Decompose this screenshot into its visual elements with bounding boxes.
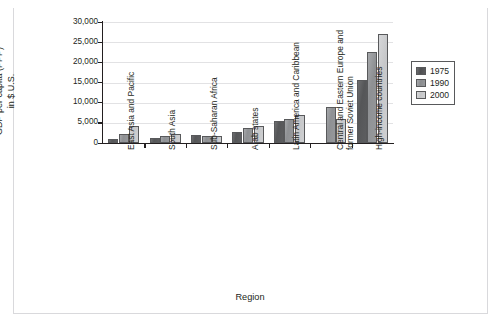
- chart-legend: 197519902000: [411, 61, 455, 105]
- y-tick-mark: [98, 22, 103, 23]
- bar: [232, 132, 242, 143]
- y-tick-label: 15,000: [52, 78, 98, 86]
- x-category-label-line: Arab states: [251, 108, 261, 150]
- y-axis-title-line1: GDP per capita (PPP): [0, 47, 4, 135]
- x-tick-mark: [186, 144, 187, 148]
- x-category-label-line: Sub-Saharan Africa: [210, 77, 220, 150]
- x-category-label: Central and Eastern Europe andformer Sov…: [336, 30, 355, 150]
- y-tick-mark: [98, 143, 103, 144]
- x-tick-mark: [144, 144, 145, 148]
- bar: [274, 121, 284, 143]
- legend-swatch-icon: [416, 67, 426, 75]
- y-tick-label: 25,000: [52, 38, 98, 46]
- legend-item[interactable]: 1990: [416, 77, 449, 89]
- y-tick-label: 20,000: [52, 58, 98, 66]
- legend-item[interactable]: 2000: [416, 89, 449, 101]
- legend-label: 2000: [430, 91, 449, 100]
- chart-page: GDP per capita (PPP) in $ U.S. 05,00010,…: [0, 0, 500, 328]
- x-tick-mark: [310, 144, 311, 148]
- bar: [191, 135, 201, 143]
- x-axis-title: Region: [0, 292, 500, 302]
- x-category-label: High-income countries: [375, 67, 385, 150]
- x-category-label-line: Latin America and Caribbean: [292, 42, 302, 150]
- y-axis-title-line2: in $ U.S.: [6, 74, 16, 109]
- x-category-label: Sub-Saharan Africa: [210, 77, 220, 150]
- x-category-label-line: South Asia: [168, 110, 178, 150]
- y-axis-title: GDP per capita (PPP) in $ U.S.: [0, 36, 17, 146]
- y-tick-mark: [98, 122, 103, 123]
- x-category-label: Latin America and Caribbean: [292, 42, 302, 150]
- legend-item[interactable]: 1975: [416, 65, 449, 77]
- top-caption: [140, 0, 360, 7]
- y-tick-label: 30,000: [52, 18, 98, 26]
- y-tick-mark: [98, 82, 103, 83]
- y-tick-label: 10,000: [52, 98, 98, 106]
- x-category-label-line: High-income countries: [375, 67, 385, 150]
- legend-label: 1990: [430, 79, 449, 88]
- x-category-label-line: former Soviet Union: [345, 30, 355, 150]
- y-tick-mark: [98, 62, 103, 63]
- page-frame-bottom-rule: [13, 313, 488, 314]
- x-category-label: East Asia and Pacific: [127, 72, 137, 150]
- x-category-label: Arab states: [251, 108, 261, 150]
- y-tick-label: 0: [52, 139, 98, 147]
- page-frame-right-rule: [487, 8, 488, 314]
- x-tick-mark: [269, 144, 270, 148]
- y-tick-label: 5,000: [52, 118, 98, 126]
- legend-swatch-icon: [416, 79, 426, 87]
- x-tick-mark: [227, 144, 228, 148]
- y-tick-mark: [98, 102, 103, 103]
- legend-swatch-icon: [416, 91, 426, 99]
- x-category-label: South Asia: [168, 110, 178, 150]
- x-category-label-line: Central and Eastern Europe and: [336, 30, 346, 150]
- x-category-label-line: East Asia and Pacific: [127, 72, 137, 150]
- bar: [357, 80, 367, 143]
- y-tick-mark: [98, 42, 103, 43]
- legend-label: 1975: [430, 67, 449, 76]
